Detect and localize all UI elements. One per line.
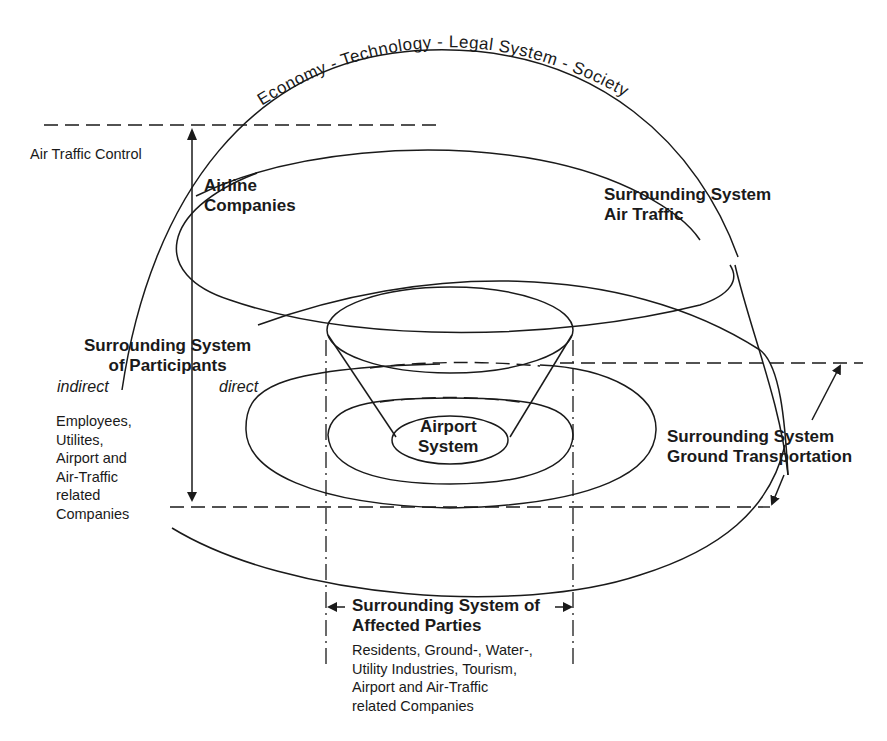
air-traffic-control-label: Air Traffic Control — [30, 145, 142, 164]
participants-label: Surrounding System of Participants — [84, 336, 251, 376]
environment-arc-label: Economy - Technology - Legal System - So… — [254, 32, 632, 109]
airline-companies-label: Airline Companies — [204, 176, 296, 216]
ground-transport-arc — [172, 445, 785, 597]
indirect-label: indirect — [57, 378, 109, 397]
affected-parties-label: Surrounding System of Affected Parties — [352, 596, 540, 636]
airport-system-label: Airport System — [418, 417, 478, 457]
affected-parties-members: Residents, Ground-, Water-, Utility Indu… — [352, 641, 533, 715]
surrounding-air-traffic-label: Surrounding System Air Traffic — [604, 185, 771, 225]
indirect-members-list: Employees, Utilites, Airport and Air-Tra… — [56, 412, 132, 523]
ground-transportation-label: Surrounding System Ground Transportation — [667, 427, 852, 467]
direct-label: direct — [219, 378, 258, 397]
airport-system-diagram: Economy - Technology - Legal System - So… — [0, 0, 887, 741]
